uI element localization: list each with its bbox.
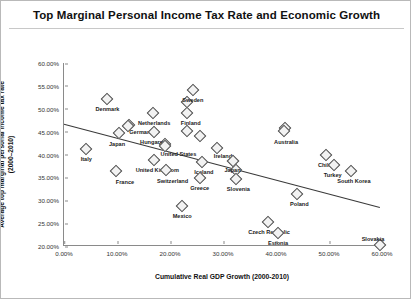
title-divider	[9, 28, 404, 29]
y-axis-tick-label: 35.00%	[38, 174, 64, 181]
x-axis-tick-label: 30.00%	[213, 245, 234, 257]
y-axis-tick-label: 50.00%	[38, 105, 64, 112]
chart-container: Top Marginal Personal Income Tax Rate an…	[0, 0, 411, 299]
data-point-label: Finland	[181, 120, 201, 126]
x-axis-tick-label: 50.00%	[319, 245, 340, 257]
data-point-label: Slovakia	[362, 236, 385, 242]
data-point-label: Turkey	[324, 172, 342, 178]
data-point-label: Australia	[274, 139, 298, 145]
data-point-label: France	[116, 179, 134, 185]
y-axis-title-line1: Average top marginal personal income tax…	[0, 81, 7, 228]
data-point-label: Mexico	[173, 213, 192, 219]
data-point-label: Sweden	[182, 97, 203, 103]
data-point-label: Japan	[224, 167, 240, 173]
data-point-label: Slovenia	[227, 186, 250, 192]
y-axis-tick-label: 30.00%	[38, 197, 64, 204]
y-axis-tick-label: 55.00%	[38, 82, 64, 89]
page-title: Top Marginal Personal Income Tax Rate an…	[1, 9, 411, 21]
x-axis-tick-label: 0.00%	[55, 245, 73, 257]
data-point-label: Greece	[190, 185, 209, 191]
data-point-label: Switzerland	[157, 178, 188, 184]
y-axis-title-line2: (2000–2010)	[7, 81, 16, 228]
x-axis-tick-label: 20.00%	[160, 245, 181, 257]
y-axis-title: Average top marginal personal income tax…	[0, 63, 17, 246]
data-point-label: Estonia	[268, 240, 288, 246]
y-axis-tick-label: 45.00%	[38, 128, 64, 135]
plot-area: 20.00%25.00%30.00%35.00%40.00%45.00%50.0…	[63, 63, 381, 246]
x-axis-title: Cumulative Real GDP Growth (2000-2010)	[63, 273, 381, 280]
x-axis-tick-label: 10.00%	[107, 245, 128, 257]
data-point-label: Japan	[109, 141, 125, 147]
data-point-label: United States	[161, 151, 197, 157]
data-point-label: South Korea	[337, 178, 370, 184]
y-axis-tick-label: 25.00%	[38, 220, 64, 227]
data-point-label: Italy	[81, 156, 92, 162]
y-axis-tick-label: 40.00%	[38, 151, 64, 158]
data-point-label: Poland	[290, 201, 309, 207]
data-point-label: Denmark	[95, 106, 119, 112]
x-axis-tick-label: 40.00%	[266, 245, 287, 257]
y-axis-tick-label: 60.00%	[38, 60, 64, 67]
